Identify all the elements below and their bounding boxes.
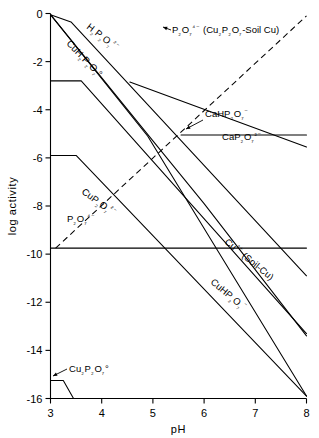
leader-p2o7-soil-cu-head bbox=[163, 27, 168, 31]
y-tick-label: -6 bbox=[33, 152, 43, 164]
x-tick-label: 6 bbox=[201, 407, 207, 419]
x-tick-label: 5 bbox=[150, 407, 156, 419]
x-axis-title: pH bbox=[171, 423, 186, 435]
y-tick-label: -2 bbox=[33, 56, 43, 68]
series-label-p2o7-plateau: P₂ O₇ ⁴ ⁻ bbox=[67, 213, 95, 225]
y-tick-label: -10 bbox=[27, 248, 43, 260]
x-tick-label: 3 bbox=[47, 407, 53, 419]
leader-cu2p2o7 bbox=[53, 369, 67, 376]
series-label-cahp2o7: CaHP₂ O₇ ⁻ bbox=[205, 108, 249, 120]
x-tick-label: 8 bbox=[303, 407, 309, 419]
series-line-hp2o7-3 bbox=[51, 15, 307, 396]
y-tick-label: -14 bbox=[27, 344, 43, 356]
y-tick-label: -8 bbox=[33, 200, 43, 212]
series-label-cup2o7: CuP₂ O₇ ² ⁻ bbox=[79, 186, 119, 220]
y-tick-label: -16 bbox=[27, 393, 43, 405]
annotation-p2o7-soil-cu: P₂ O₇ ⁴ ⁻ (Cu₂ P₂ O₇ -Soil Cu) bbox=[172, 24, 279, 36]
leader-p2o7-soil-cu bbox=[163, 27, 171, 31]
series-label-cuhp2o7: CuHP₂ O₇ ⁻ bbox=[208, 276, 249, 314]
phosphate-speciation-chart: 0-2-4-6-8-10-12-14-16345678pHlog activit… bbox=[0, 0, 319, 438]
series-label-cuh2p2o7: CuH₂ P₂ O₇ ° bbox=[64, 38, 105, 80]
y-tick-label: -12 bbox=[27, 296, 43, 308]
x-tick-label: 7 bbox=[252, 407, 258, 419]
series-label-cu2p2o7: Cu₂ P₂ O₇ ° bbox=[69, 363, 109, 375]
axis-frame bbox=[51, 14, 307, 399]
series-label-h2p2o7: H₂ P₂ O₇ ² ⁻ bbox=[84, 21, 122, 54]
series-line-cu2p2o7-0 bbox=[51, 380, 74, 398]
annotation-cu2plus-soil-cu: Cu² ⁺ (Soil-Cu) bbox=[223, 236, 277, 282]
y-axis-title: log activity bbox=[6, 177, 18, 236]
y-tick-label: 0 bbox=[36, 8, 42, 20]
series-label-cap2o7: CaP₂ O₇ ² ⁻ bbox=[222, 131, 262, 143]
series-line-cuh2p2o7-0 bbox=[51, 81, 307, 334]
x-tick-label: 4 bbox=[99, 407, 105, 419]
y-tick-label: -4 bbox=[33, 104, 43, 116]
